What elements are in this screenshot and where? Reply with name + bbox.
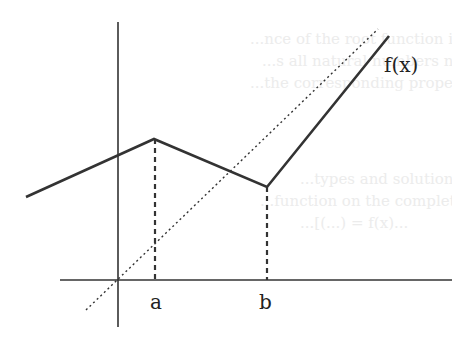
function-diagram: f(x) a b bbox=[0, 0, 452, 337]
x-label-a: a bbox=[150, 290, 162, 314]
function-curve bbox=[26, 36, 389, 197]
identity-line-dotted bbox=[86, 29, 378, 310]
function-label: f(x) bbox=[384, 53, 418, 77]
x-label-b: b bbox=[259, 290, 272, 314]
